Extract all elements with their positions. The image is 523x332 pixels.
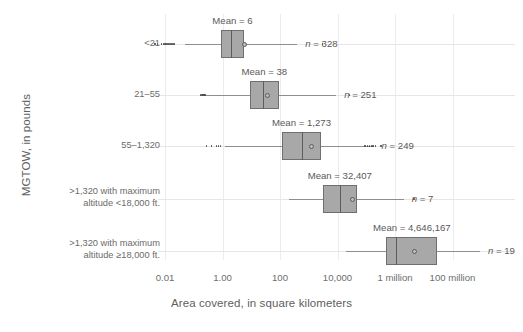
x-tick-label: 100 [272,272,288,283]
outlier-point [367,145,369,147]
box [250,81,279,109]
y-axis-category-label: 21–55 [14,89,160,101]
y-axis-category-label: <21 [14,38,160,50]
x-tick-label: 0.01 [156,272,175,283]
outlier-point [364,145,366,147]
gridline-0 [165,14,166,260]
category-label-line: <21 [14,38,160,50]
x-tick-label: 1 million [377,272,412,283]
outlier-point [174,43,176,45]
outlier-point [161,43,163,45]
mean-marker [412,249,417,254]
y-axis-category-label: >1,320 with maximumaltitude <18,000 ft. [14,186,160,209]
sample-size-annotation: n = 328 [305,38,337,49]
category-label-line: 55–1,320 [14,140,160,152]
sample-size-annotation: n = 249 [382,140,414,151]
mean-annotation: Mean = 38 [241,66,287,77]
gridline-3 [338,14,339,260]
sample-size-annotation: n = 19 [488,245,515,256]
y-axis-category-label: >1,320 with maximumaltitude ≥18,000 ft. [14,238,160,261]
median-line [231,30,232,58]
outlier-point [204,94,206,96]
category-label-line: altitude ≥18,000 ft. [14,250,160,262]
gridline-2 [280,14,281,260]
gridline-5 [453,14,454,260]
box [221,30,244,58]
x-tick-label: 100 million [430,272,476,283]
mean-marker [350,197,355,202]
y-axis-category-label: 55–1,320 [14,140,160,152]
x-axis-title: Area covered, in square kilometers [0,297,523,309]
x-tick-label: 1.00 [213,272,232,283]
outlier-point [372,145,374,147]
x-tick-label: 10,000 [323,272,352,283]
mean-marker [242,42,247,47]
category-label-line: altitude <18,000 ft. [14,198,160,210]
category-label-line: 21–55 [14,89,160,101]
category-label-line: >1,320 with maximum [14,238,160,250]
mean-annotation: Mean = 32,407 [308,170,372,181]
mean-annotation: Mean = 1,273 [272,117,331,128]
mean-marker [265,93,270,98]
outlier-point [218,145,220,147]
category-label-line: >1,320 with maximum [14,186,160,198]
median-line [396,237,397,265]
mean-marker [309,144,314,149]
boxplot-chart: MGTOW, in pounds Mean = 6n = 328Mean = 3… [0,0,523,332]
mean-annotation: Mean = 4,646,167 [373,222,451,233]
median-line [340,185,341,213]
median-line [302,132,303,160]
sample-size-annotation: n = 7 [412,193,434,204]
sample-size-annotation: n = 251 [344,89,376,100]
mean-annotation: Mean = 6 [212,15,252,26]
median-line [263,81,264,109]
